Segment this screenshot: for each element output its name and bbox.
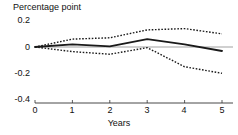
point-estimate-line	[35, 39, 222, 51]
plot-area	[0, 0, 238, 135]
chart-container: Percentage point 0.2 0 -0.2 -0.4 0 1 2 3…	[0, 0, 238, 135]
lower-confidence-band-line	[35, 47, 222, 73]
